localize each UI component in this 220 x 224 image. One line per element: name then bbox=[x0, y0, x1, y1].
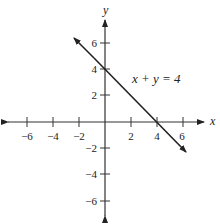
coordinate-plane: −6 −4 −2 2 4 6 6 4 2 −2 −4 −6 x y x + y … bbox=[0, 0, 220, 224]
x-tick-label: −4 bbox=[47, 130, 59, 142]
x-axis-label: x bbox=[209, 114, 216, 128]
y-tick-label: 4 bbox=[92, 63, 98, 75]
y-tick-label: −6 bbox=[85, 195, 97, 207]
y-axis-label: y bbox=[102, 3, 109, 17]
x-tick-label: −2 bbox=[73, 130, 85, 142]
y-tick-label: −4 bbox=[85, 168, 97, 180]
y-tick-label: −2 bbox=[85, 142, 97, 154]
y-tick-label: 6 bbox=[92, 37, 98, 49]
x-tick-label: 6 bbox=[179, 130, 185, 142]
x-tick-label: 2 bbox=[128, 130, 134, 142]
equation-label: x + y = 4 bbox=[131, 71, 181, 86]
y-tick-label: 2 bbox=[92, 89, 98, 101]
x-tick-label: 4 bbox=[154, 130, 160, 142]
x-tick-label: −6 bbox=[21, 130, 33, 142]
